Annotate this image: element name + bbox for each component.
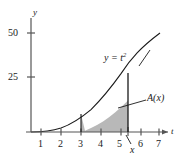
y-axis-label: y	[33, 8, 37, 17]
plot-canvas	[0, 0, 179, 157]
area-label-leader-line	[118, 100, 146, 108]
x-tick-label-2: 2	[58, 139, 63, 149]
y-tick-label-25: 25	[8, 72, 18, 82]
x-tick-label-3: 3	[78, 139, 83, 149]
x-tick-label-1: 1	[38, 139, 43, 149]
curve-equation-exponent: 2	[123, 51, 126, 58]
parabola-curve	[31, 33, 160, 132]
x-tick-label-4: 4	[98, 139, 103, 149]
x-variable-label: x	[130, 145, 134, 155]
shaded-area-region	[81, 101, 128, 132]
x-tick-label-6: 6	[138, 139, 143, 149]
x-tick-label-7: 7	[156, 139, 161, 149]
curve-equation-label: y = t2	[104, 52, 126, 63]
x-variable-leader-line	[126, 135, 131, 144]
x-axis-arrowhead	[162, 130, 168, 135]
x-tick-label-5: 5	[117, 139, 122, 149]
curve-equation-base: y = t	[104, 52, 123, 63]
area-function-label: A(x)	[147, 93, 164, 103]
figure-area-under-parabola: y t 50 25 1 2 3 4 5 6 7 x y = t2 A(x)	[0, 0, 179, 157]
curve-label-leader-line	[139, 50, 150, 66]
x-axis-label: t	[171, 127, 174, 136]
y-tick-label-50: 50	[8, 28, 18, 38]
